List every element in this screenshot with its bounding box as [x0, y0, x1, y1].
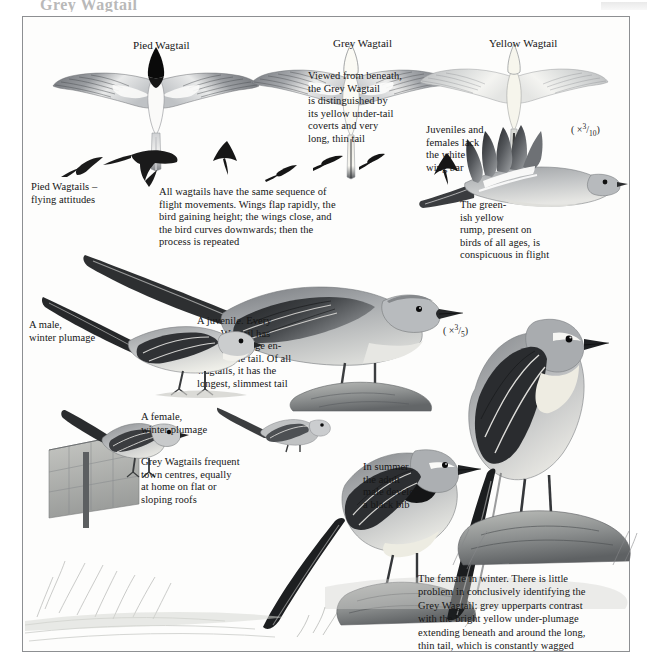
plate-page: Grey Wagtail — [0, 0, 653, 669]
scale-denominator: 10 — [589, 129, 597, 138]
caption-female-winter-long: The female in winter. There is little pr… — [418, 572, 636, 652]
scale-open: ( × — [571, 124, 582, 135]
caption-flying-attitudes: Pied Wagtails – flying attitudes — [31, 181, 151, 206]
title-remnant: Grey Wagtail — [40, 0, 340, 12]
caption-wing-bar: Juveniles and females lack the white win… — [426, 124, 498, 174]
grey-wagtail-male-winter-perched — [43, 293, 263, 403]
label-pied-wagtail: Pied Wagtail — [133, 39, 190, 52]
label-yellow-wagtail: Yellow Wagtail — [489, 37, 557, 50]
plate-border: Pied Wagtail — [22, 16, 630, 652]
scale-close: ) — [597, 124, 600, 135]
caption-town-centres: Grey Wagtails frequent town centres, equ… — [141, 456, 271, 506]
scale-numerator: 3 — [582, 122, 586, 131]
corner-mark — [601, 2, 647, 10]
label-grey-wagtail: Grey Wagtail — [333, 37, 392, 50]
caption-flight-sequence: All wagtails have the same sequence of f… — [159, 186, 359, 249]
caption-male-winter: A male, winter plumage — [29, 319, 125, 344]
scale-upper-right: ( ×3/10) — [571, 122, 600, 138]
